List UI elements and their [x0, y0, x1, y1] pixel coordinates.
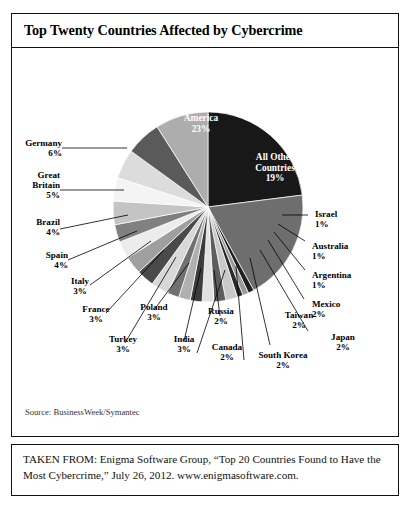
slice-label-japan: Japan 2% [320, 332, 366, 352]
slice-label-germany: Germany 6% [12, 138, 62, 158]
slice-label-india: India 3% [162, 334, 206, 354]
slice-label-brazil: Brazil 4% [12, 217, 60, 237]
slice-label-argentina: Argentina 1% [312, 270, 370, 290]
slice-label-israel: Israel 1% [315, 209, 361, 229]
slice-label-turkey: Turkey 3% [99, 334, 147, 354]
slice-label-united-states: United States of America 23% [149, 92, 253, 134]
slice-label-france: France 3% [72, 304, 120, 324]
chart-title: Top Twenty Countries Affected by Cybercr… [24, 22, 303, 39]
slice-label-great-britain: Great Britain 5% [12, 170, 60, 201]
slice-label-all-other-countries: All Other Countries 19% [229, 152, 321, 184]
slice-label-south-korea: South Korea 2% [244, 350, 322, 370]
chart-panel: Top Twenty Countries Affected by Cybercr… [11, 13, 399, 437]
slice-label-mexico: Mexico 2% [312, 299, 364, 319]
attribution-text: TAKEN FROM: Enigma Software Group, “Top … [23, 452, 387, 484]
slice-label-russia: Russia 2% [198, 306, 244, 326]
slice-label-italy: Italy 3% [60, 276, 100, 296]
slice-label-australia: Australia 1% [312, 241, 370, 261]
slice-label-spain: Spain 4% [12, 250, 68, 270]
slice-label-poland: Poland 3% [130, 302, 178, 322]
slice-label-china: China 9% [107, 122, 157, 143]
attribution-panel: TAKEN FROM: Enigma Software Group, “Top … [11, 444, 399, 496]
source-note: Source: BusinessWeek/Symantec [25, 407, 140, 417]
figure-page: Top Twenty Countries Affected by Cybercr… [0, 0, 410, 509]
